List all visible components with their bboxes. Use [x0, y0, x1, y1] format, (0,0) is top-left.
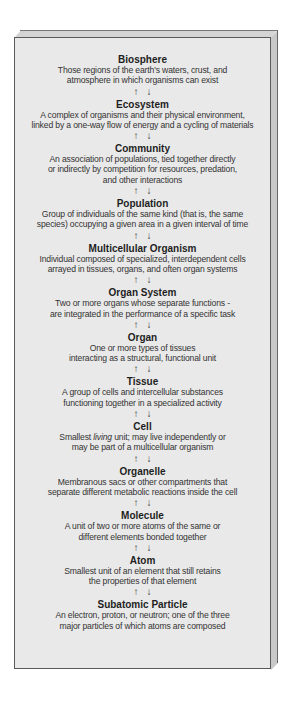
- arrow-down-icon: ↓: [147, 497, 152, 509]
- arrow-down-icon: ↓: [147, 363, 152, 375]
- arrow-up-icon: ↑: [134, 86, 139, 98]
- level-description: Two or more organs whose separate functi…: [14, 298, 271, 319]
- level-description: Smallest living unit; may live independe…: [14, 432, 271, 453]
- arrow-up-icon: ↑: [134, 185, 139, 197]
- level-organelle: Organelle Membranous sacs or other compa…: [14, 466, 271, 498]
- level-description: An electron, proton, or neutron; one of …: [14, 610, 271, 631]
- level-name: Biosphere: [14, 54, 271, 65]
- arrow-up-icon: ↑: [134, 408, 139, 420]
- level-description: A complex of organisms and their physica…: [14, 110, 271, 131]
- level-community: Community An association of populations,…: [14, 143, 271, 185]
- level-name: Ecosystem: [14, 99, 271, 110]
- level-atom: Atom Smallest unit of an element that st…: [14, 555, 271, 587]
- box-top-edge: [20, 30, 277, 31]
- bidirectional-arrows: ↑↓: [14, 542, 271, 555]
- level-subatomic-particle: Subatomic Particle An electron, proton, …: [14, 599, 271, 631]
- arrow-up-icon: ↑: [134, 274, 139, 286]
- arrow-down-icon: ↓: [147, 319, 152, 331]
- level-description: Individual composed of specialized, inte…: [14, 254, 271, 275]
- arrow-down-icon: ↓: [147, 130, 152, 142]
- level-description: A unit of two or more atoms of the same …: [14, 521, 271, 542]
- arrow-down-icon: ↓: [147, 408, 152, 420]
- level-organ: Organ One or more types of tissues inter…: [14, 332, 271, 364]
- level-multicellular-organism: Multicellular Organism Individual compos…: [14, 243, 271, 275]
- arrow-up-icon: ↑: [134, 230, 139, 242]
- level-name: Community: [14, 143, 271, 154]
- level-name: Atom: [14, 555, 271, 566]
- arrow-down-icon: ↓: [147, 185, 152, 197]
- bidirectional-arrows: ↑↓: [14, 230, 271, 243]
- level-tissue: Tissue A group of cells and intercellula…: [14, 376, 271, 408]
- arrow-up-icon: ↑: [134, 586, 139, 598]
- level-cell: Cell Smallest living unit; may live inde…: [14, 421, 271, 453]
- bidirectional-arrows: ↑↓: [14, 86, 271, 99]
- level-name: Organelle: [14, 466, 271, 477]
- level-name: Cell: [14, 421, 271, 432]
- level-organ-system: Organ System Two or more organs whose se…: [14, 287, 271, 319]
- level-description: Smallest unit of an element that still r…: [14, 566, 271, 587]
- level-name: Organ: [14, 332, 271, 343]
- level-description: Group of individuals of the same kind (t…: [14, 209, 271, 230]
- bidirectional-arrows: ↑↓: [14, 363, 271, 376]
- organization-levels: Biosphere Those regions of the earth's w…: [14, 54, 271, 631]
- bidirectional-arrows: ↑↓: [14, 130, 271, 143]
- level-description: Membranous sacs or other compartments th…: [14, 477, 271, 498]
- level-name: Tissue: [14, 376, 271, 387]
- level-name: Molecule: [14, 510, 271, 521]
- arrow-down-icon: ↓: [147, 542, 152, 554]
- level-description: A group of cells and intercellular subst…: [14, 387, 271, 408]
- level-biosphere: Biosphere Those regions of the earth's w…: [14, 54, 271, 86]
- box-top-bevel: [15, 30, 277, 37]
- desc-text: Smallest: [59, 432, 93, 442]
- box-side-edge: [277, 30, 278, 663]
- arrow-up-icon: ↑: [134, 542, 139, 554]
- level-description: Those regions of the earth's waters, cru…: [14, 65, 271, 86]
- level-population: Population Group of individuals of the s…: [14, 198, 271, 230]
- level-name: Subatomic Particle: [14, 599, 271, 610]
- arrow-up-icon: ↑: [134, 130, 139, 142]
- bidirectional-arrows: ↑↓: [14, 586, 271, 599]
- bidirectional-arrows: ↑↓: [14, 497, 271, 510]
- arrow-up-icon: ↑: [134, 319, 139, 331]
- level-description: One or more types of tissues interacting…: [14, 343, 271, 364]
- arrow-up-icon: ↑: [134, 497, 139, 509]
- desc-italic-text: living: [93, 432, 112, 442]
- arrow-up-icon: ↑: [134, 453, 139, 465]
- level-description: An association of populations, tied toge…: [14, 154, 271, 185]
- arrow-down-icon: ↓: [147, 586, 152, 598]
- level-name: Population: [14, 198, 271, 209]
- level-ecosystem: Ecosystem A complex of organisms and the…: [14, 99, 271, 131]
- arrow-down-icon: ↓: [147, 230, 152, 242]
- bidirectional-arrows: ↑↓: [14, 319, 271, 332]
- bidirectional-arrows: ↑↓: [14, 408, 271, 421]
- bidirectional-arrows: ↑↓: [14, 453, 271, 466]
- arrow-down-icon: ↓: [147, 86, 152, 98]
- arrow-down-icon: ↓: [147, 274, 152, 286]
- level-name: Multicellular Organism: [14, 243, 271, 254]
- level-name: Organ System: [14, 287, 271, 298]
- arrow-up-icon: ↑: [134, 363, 139, 375]
- bidirectional-arrows: ↑↓: [14, 274, 271, 287]
- arrow-down-icon: ↓: [147, 453, 152, 465]
- bidirectional-arrows: ↑↓: [14, 185, 271, 198]
- level-molecule: Molecule A unit of two or more atoms of …: [14, 510, 271, 542]
